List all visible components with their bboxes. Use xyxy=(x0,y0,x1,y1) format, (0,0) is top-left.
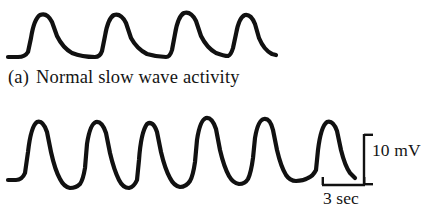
trace-a-normal-slow-wave xyxy=(8,13,276,57)
voltage-scale-label: 10 mV xyxy=(372,140,421,161)
panel-caption-text: Normal slow wave activity xyxy=(36,67,240,87)
panel-a-caption: (a)Normal slow wave activity xyxy=(8,68,240,87)
waveform-traces xyxy=(0,0,437,216)
figure-container: (a)Normal slow wave activity 10 mV 3 sec xyxy=(0,0,437,216)
trace-b-abnormal-spike-activity xyxy=(8,118,355,188)
panel-label-a: (a) xyxy=(8,67,29,87)
time-scale-bar xyxy=(322,177,365,185)
time-scale-label: 3 sec xyxy=(323,188,359,209)
